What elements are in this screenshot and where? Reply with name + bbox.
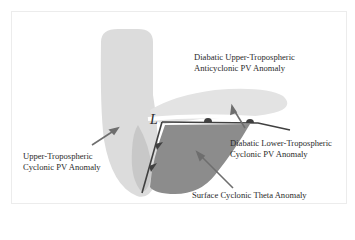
- label-line: Cyclonic PV Anomaly: [230, 149, 332, 160]
- label-line: Anticyclonic PV Anomaly: [194, 63, 295, 74]
- label-upper-cyclonic: Upper-Tropospheric Cyclonic PV Anomaly: [23, 151, 101, 172]
- label-lower-cyclonic: Diabatic Lower-Tropospheric Cyclonic PV …: [230, 138, 332, 159]
- label-surface-theta: Surface Cyclonic Theta Anomaly: [192, 190, 307, 201]
- label-line: Cyclonic PV Anomaly: [23, 162, 101, 173]
- label-line: Upper-Tropospheric: [23, 151, 101, 162]
- low-center-marker: L: [149, 112, 158, 127]
- label-line: Diabatic Upper-Tropospheric: [194, 52, 295, 63]
- label-upper-anticyclonic: Diabatic Upper-Tropospheric Anticyclonic…: [194, 52, 295, 73]
- label-line: Diabatic Lower-Tropospheric: [230, 138, 332, 149]
